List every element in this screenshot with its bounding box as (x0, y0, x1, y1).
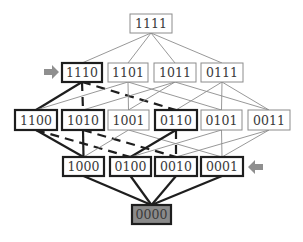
node-label: 1110 (66, 65, 98, 80)
node-0000: 0000 (132, 205, 171, 224)
edge-1100-1000 (36, 130, 84, 157)
node-label: 0111 (206, 65, 238, 80)
node-label: 0011 (253, 113, 285, 128)
node-label: 1010 (67, 113, 99, 128)
node-0010: 0010 (155, 157, 197, 176)
edge-1010-1000 (83, 130, 84, 157)
node-1001: 1001 (108, 110, 149, 130)
node-0001: 0001 (201, 157, 243, 176)
node-label: 0100 (115, 159, 147, 174)
node-label: 1000 (68, 159, 100, 174)
edge-1010-0010 (83, 130, 176, 157)
node-label: 1011 (159, 65, 191, 80)
edge-1110-1100 (36, 82, 82, 110)
edge-1111-0111 (151, 33, 222, 63)
node-label: 0010 (160, 159, 192, 174)
hasse-diagram: 1111111011011011011111001010100101100101… (0, 0, 303, 242)
node-label: 1111 (135, 16, 167, 31)
edge-1101-0101 (128, 82, 222, 110)
node-1110: 1110 (62, 63, 102, 82)
node-label: 0001 (206, 159, 238, 174)
edge-0111-0011 (222, 82, 269, 110)
edge-0111-0101 (222, 82, 223, 110)
edge-0111-0110 (176, 82, 222, 110)
edge-0001-0000 (152, 176, 223, 205)
node-1100: 1100 (15, 110, 57, 130)
arrow-right-icon (44, 65, 59, 79)
node-label: 1001 (113, 113, 145, 128)
edge-1111-1101 (128, 33, 151, 63)
node-1101: 1101 (108, 63, 148, 82)
node-0100: 0100 (110, 157, 151, 176)
edge-1111-1110 (82, 33, 151, 63)
edge-0011-0001 (222, 130, 269, 157)
edge-0110-0100 (131, 130, 177, 157)
node-0101: 0101 (201, 110, 242, 130)
node-label: 1101 (112, 65, 144, 80)
node-0110: 0110 (155, 110, 197, 130)
edge-1111-1011 (151, 33, 175, 63)
node-1111: 1111 (130, 14, 172, 33)
node-label: 0000 (136, 207, 168, 222)
edge-1001-1000 (84, 130, 129, 157)
node-0111: 0111 (201, 63, 243, 82)
node-1010: 1010 (62, 110, 104, 130)
edge-1011-1001 (129, 82, 176, 110)
node-0011: 0011 (248, 110, 290, 130)
node-1000: 1000 (63, 157, 104, 176)
node-1011: 1011 (154, 63, 196, 82)
node-label: 0101 (206, 113, 238, 128)
arrow-left-icon (248, 160, 263, 174)
nodes-layer: 1111111011011011011111001010100101100101… (15, 14, 290, 224)
node-label: 1100 (20, 113, 52, 128)
node-label: 0110 (160, 113, 192, 128)
edge-0011-0010 (176, 130, 269, 157)
